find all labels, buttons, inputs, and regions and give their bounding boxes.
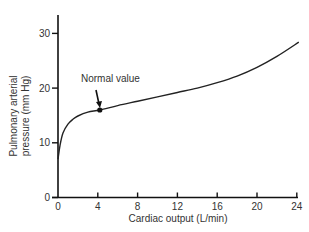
x-axis-label: Cardiac output (L/min)	[129, 213, 228, 224]
x-tick-label: 8	[135, 201, 141, 212]
normal-value-dot	[97, 107, 102, 112]
chart: 0102030 04812162024 Cardiac output (L/mi…	[0, 0, 309, 232]
y-tick-label: 0	[44, 192, 50, 203]
y-axis-label-line-1: Pulmonary arterial	[8, 75, 19, 156]
y-tick-label: 30	[39, 28, 51, 39]
y-ticks: 0102030	[39, 28, 58, 203]
arrowhead-icon	[96, 101, 102, 108]
x-tick-label: 24	[291, 201, 303, 212]
x-axis: 04812162024	[52, 193, 303, 213]
y-axis-label: Pulmonary arterial pressure (mm Hg)	[8, 75, 31, 156]
x-tick-label: 20	[251, 201, 263, 212]
x-tick-label: 12	[172, 201, 184, 212]
y-axis-label-line-2: pressure (mm Hg)	[20, 76, 31, 157]
y-tick-label: 20	[39, 83, 51, 94]
pressure-curve	[58, 42, 299, 159]
y-axis: 0102030	[39, 15, 58, 203]
x-tick-label: 16	[212, 201, 224, 212]
x-tick-label: 0	[55, 201, 61, 212]
normal-value-label: Normal value	[81, 73, 140, 84]
x-ticks: 04812162024	[55, 193, 303, 213]
y-tick-label: 10	[39, 137, 51, 148]
x-tick-label: 4	[95, 201, 101, 212]
